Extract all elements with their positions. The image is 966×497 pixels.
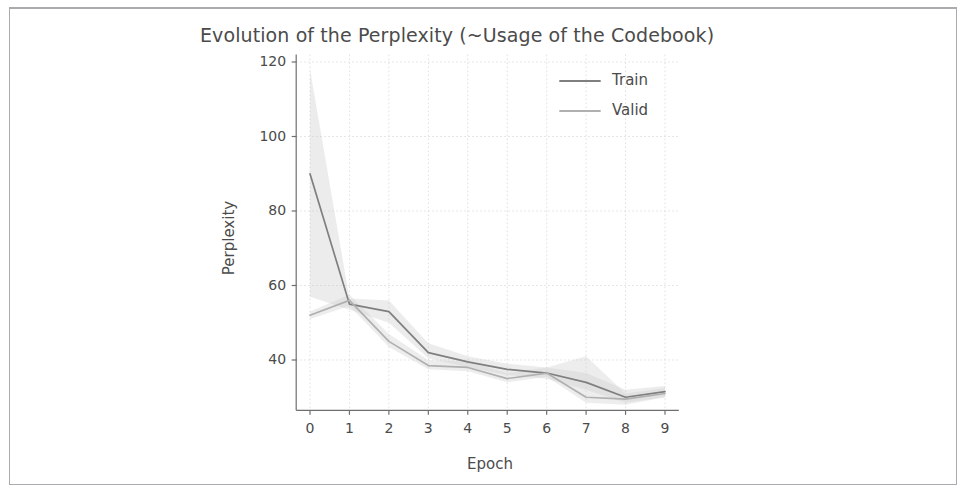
x-axis-label: Epoch (430, 455, 550, 473)
y-tick-label: 120 (240, 53, 286, 69)
legend-label-train: Train (612, 71, 648, 89)
x-tick-label: 8 (616, 420, 636, 436)
x-tick-label: 9 (655, 420, 675, 436)
screenshot-page: Evolution of the Perplexity (~Usage of t… (0, 0, 966, 497)
x-tick-label: 3 (418, 420, 438, 436)
chart-figure: Evolution of the Perplexity (~Usage of t… (0, 0, 966, 497)
y-axis-label-wrap: Perplexity (213, 185, 243, 305)
x-tick-label: 6 (537, 420, 557, 436)
y-tick-label: 100 (240, 128, 286, 144)
legend-swatches (560, 81, 600, 111)
y-tick-label: 80 (240, 202, 286, 218)
x-tick-label: 7 (576, 420, 596, 436)
data-lines (310, 174, 665, 399)
y-axis-label: Perplexity (220, 186, 238, 290)
y-tick-label: 60 (240, 277, 286, 293)
x-tick-label: 1 (339, 420, 359, 436)
x-tick-label: 5 (497, 420, 517, 436)
legend-label-valid: Valid (612, 101, 648, 119)
y-tick-label: 40 (240, 351, 286, 367)
x-tick-label: 0 (300, 420, 320, 436)
confidence-bands (310, 69, 665, 404)
x-tick-label: 4 (458, 420, 478, 436)
plot-area (0, 0, 966, 497)
x-tick-label: 2 (379, 420, 399, 436)
